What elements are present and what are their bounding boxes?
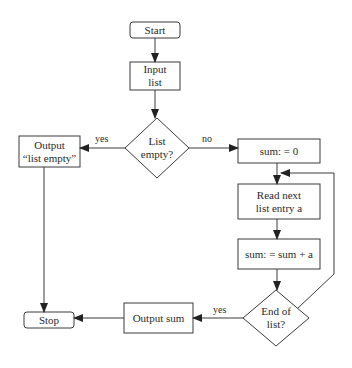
start-label: Start xyxy=(130,22,180,38)
input-list-label: Input list xyxy=(130,62,180,90)
end-of-list-label: End of list? xyxy=(246,302,306,334)
list-empty-yes-label: yes xyxy=(95,133,108,144)
stop-label: Stop xyxy=(24,312,74,328)
output-list-empty-label: Output “list empty” xyxy=(19,136,80,167)
end-of-list-yes-label: yes xyxy=(213,304,226,315)
list-empty-no-label: no xyxy=(202,133,212,144)
sum-add-label: sum: = sum + a xyxy=(238,239,320,269)
flowchart-canvas: Start Input list List empty? Output “lis… xyxy=(0,0,352,368)
output-sum-label: Output sum xyxy=(124,303,193,333)
read-next-label: Read next list entry a xyxy=(238,184,320,219)
list-empty-label: List empty? xyxy=(127,132,187,164)
sum-init-label: sum: = 0 xyxy=(238,139,320,163)
